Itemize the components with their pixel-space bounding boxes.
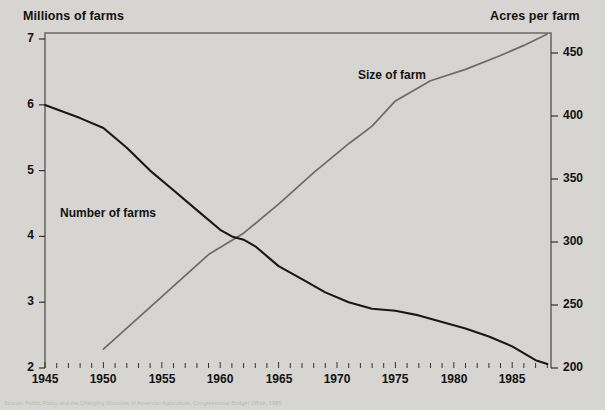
x-tick-1960: 1960 bbox=[197, 372, 243, 386]
plot-svg bbox=[0, 0, 605, 410]
series-label-size-of-farm: Size of farm bbox=[358, 68, 426, 82]
y-left-tick-4: 4 bbox=[8, 228, 34, 242]
x-tick-1985: 1985 bbox=[489, 372, 535, 386]
x-tick-1975: 1975 bbox=[372, 372, 418, 386]
y-right-tick-400: 400 bbox=[563, 108, 583, 122]
x-tick-1970: 1970 bbox=[314, 372, 360, 386]
x-tick-1945: 1945 bbox=[22, 372, 68, 386]
x-axis-minor-ticks bbox=[45, 362, 547, 368]
plot-frame bbox=[45, 33, 551, 368]
chart-canvas: Millions of farms Acres per farm bbox=[0, 0, 605, 410]
y-axis-left-ticks bbox=[39, 39, 45, 368]
y-right-tick-300: 300 bbox=[563, 234, 583, 248]
x-tick-1965: 1965 bbox=[256, 372, 302, 386]
series-size-of-farm bbox=[103, 34, 547, 349]
y-right-tick-350: 350 bbox=[563, 171, 583, 185]
y-right-tick-450: 450 bbox=[563, 45, 583, 59]
x-tick-1950: 1950 bbox=[80, 372, 126, 386]
x-tick-1980: 1980 bbox=[431, 372, 477, 386]
series-number-of-farms bbox=[45, 105, 547, 364]
source-caption: Source: Public Policy and the Changing S… bbox=[4, 400, 282, 406]
series-label-number-of-farms: Number of farms bbox=[60, 206, 156, 220]
y-left-tick-5: 5 bbox=[8, 163, 34, 177]
y-left-tick-3: 3 bbox=[8, 294, 34, 308]
y-left-tick-7: 7 bbox=[8, 31, 34, 45]
y-right-tick-200: 200 bbox=[563, 360, 583, 374]
y-right-tick-250: 250 bbox=[563, 297, 583, 311]
y-axis-right-ticks bbox=[551, 53, 558, 368]
x-tick-1955: 1955 bbox=[139, 372, 185, 386]
y-left-tick-6: 6 bbox=[8, 97, 34, 111]
